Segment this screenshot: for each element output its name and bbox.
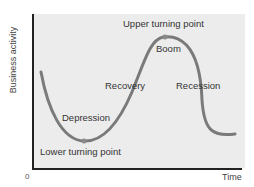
boom-label: Boom — [156, 43, 181, 54]
lower-turning-point-marker — [82, 139, 87, 144]
upper-turning-point-marker — [163, 35, 168, 40]
recovery-label: Recovery — [105, 80, 145, 91]
upper-turning-point-label: Upper turning point — [123, 18, 204, 29]
y-axis-label: Business activity — [8, 25, 18, 95]
depression-label: Depression — [62, 112, 110, 123]
origin-label: 0 — [25, 172, 29, 181]
recession-label: Recession — [176, 80, 220, 91]
lower-turning-point-label: Lower turning point — [40, 146, 121, 157]
x-axis-label: Time — [222, 172, 242, 182]
